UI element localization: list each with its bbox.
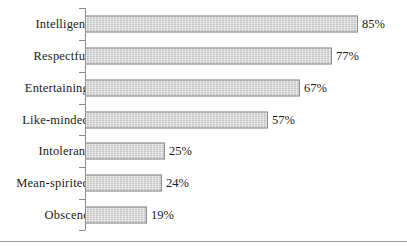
bar-container: 67% — [85, 80, 300, 97]
bar-container: 85% — [85, 16, 358, 33]
bar — [85, 143, 165, 160]
bar — [85, 16, 358, 33]
bar — [85, 112, 268, 129]
value-label: 25% — [165, 144, 192, 159]
bar-chart-figure: Intelligent 85% Respectful 77% Entertain… — [0, 0, 407, 251]
bar-row: Mean-spirited 24% — [0, 167, 407, 199]
bar-row: Like-minded 57% — [0, 104, 407, 136]
value-label: 57% — [268, 113, 295, 128]
bar — [85, 175, 162, 192]
bar-container: 57% — [85, 112, 268, 129]
bar-row: Entertaining 67% — [0, 72, 407, 104]
category-label: Intolerant — [38, 144, 89, 159]
category-label: Entertaining — [25, 81, 89, 96]
figure-bottom-rule — [0, 241, 407, 242]
value-label: 85% — [358, 17, 385, 32]
value-label: 77% — [332, 49, 359, 64]
bar-row: Intolerant 25% — [0, 135, 407, 167]
plot-area: Intelligent 85% Respectful 77% Entertain… — [0, 0, 407, 251]
category-label: Like-minded — [22, 113, 89, 128]
bar-row: Intelligent 85% — [0, 8, 407, 40]
bar-container: 25% — [85, 143, 165, 160]
bar-container: 24% — [85, 175, 162, 192]
bar — [85, 80, 300, 97]
value-label: 19% — [147, 208, 174, 223]
bar-container: 19% — [85, 207, 147, 224]
bar — [85, 207, 147, 224]
value-label: 24% — [162, 176, 189, 191]
bar-row: Obscene 19% — [0, 199, 407, 231]
category-label: Respectful — [34, 49, 89, 64]
value-label: 67% — [300, 81, 327, 96]
category-label: Intelligent — [35, 17, 89, 32]
bar-container: 77% — [85, 48, 332, 65]
bar — [85, 48, 332, 65]
category-label: Obscene — [45, 208, 89, 223]
bar-row: Respectful 77% — [0, 40, 407, 72]
category-label: Mean-spirited — [16, 176, 89, 191]
